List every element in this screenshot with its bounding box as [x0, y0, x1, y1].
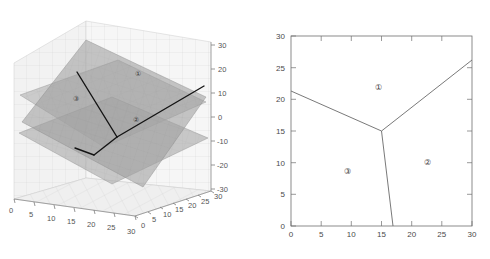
xtick3d-10: 10	[47, 214, 55, 223]
xtick3d-5: 5	[29, 210, 33, 219]
ztick-m20: -20	[217, 161, 228, 170]
ytick3d-10: 10	[163, 210, 171, 219]
panel-2d-voronoi: ① ② ③ 0 5 10 15 20 25 30 0 5 10 15 20 25…	[245, 0, 490, 259]
ztick-m10: -10	[217, 137, 228, 146]
panel-3d-plane-arrangement: ① ② ③ 30 20 10 0 -10	[0, 0, 245, 259]
xtick3d-0: 0	[9, 206, 13, 215]
ytick3d-30: 30	[214, 192, 222, 201]
ytick3d-5: 5	[152, 215, 156, 224]
ztick-10: 10	[218, 89, 226, 98]
ztick-0: 0	[218, 113, 222, 122]
ytick2d-20: 20	[276, 95, 285, 104]
xtick3d-15: 15	[67, 217, 75, 226]
svg-2d-axes: ① ② ③ 0 5 10 15 20 25 30 0 5 10 15 20 25…	[245, 0, 490, 259]
xtick3d-30: 30	[127, 227, 135, 236]
axis3d-z-ticks	[211, 45, 215, 189]
ytick2d-30: 30	[276, 32, 285, 41]
region-label-3d-two: ②	[133, 116, 139, 123]
xtick3d-20: 20	[87, 220, 95, 229]
xtick2d-25: 25	[437, 230, 446, 239]
ytick3d-0: 0	[141, 221, 145, 230]
xtick2d-30: 30	[468, 230, 477, 239]
xtick2d-5: 5	[319, 230, 324, 239]
ytick2d-5: 5	[281, 190, 286, 199]
figure-canvas: ① ② ③ 30 20 10 0 -10	[0, 0, 490, 259]
ytick2d-25: 25	[276, 64, 285, 73]
xtick2d-0: 0	[289, 230, 294, 239]
region-label-2d-three: ③	[344, 167, 351, 176]
svg-3d-axes: ① ② ③ 30 20 10 0 -10	[0, 0, 245, 259]
axis3d-z: 30 20 10 0 -10 -20 -30	[211, 41, 228, 194]
region-label-2d-one: ①	[375, 83, 382, 92]
xtick2d-15: 15	[377, 230, 386, 239]
ytick3d-20: 20	[188, 201, 196, 210]
xtick2d-20: 20	[407, 230, 416, 239]
region-label-2d-two: ②	[424, 158, 431, 167]
region-label-3d-one: ①	[135, 70, 141, 77]
xtick2d-10: 10	[347, 230, 356, 239]
ytick2d-0: 0	[281, 222, 286, 231]
ytick3d-25: 25	[201, 197, 209, 206]
ztick-20: 20	[218, 65, 226, 74]
region-label-3d-three: ③	[73, 95, 79, 102]
xtick3d-25: 25	[107, 223, 115, 232]
ztick-30: 30	[218, 41, 226, 50]
ytick2d-15: 15	[276, 127, 285, 136]
ytick3d-15: 15	[175, 205, 183, 214]
ytick2d-10: 10	[276, 159, 285, 168]
